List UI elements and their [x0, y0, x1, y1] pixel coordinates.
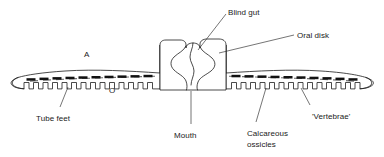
- label-mouth: Mouth: [174, 131, 196, 141]
- oral-disk-outline: [160, 39, 226, 90]
- label-blind-gut: Blind gut: [228, 8, 260, 18]
- label-oral-marker: O: [109, 86, 115, 95]
- anatomy-figure: Blind gut Oral disk Tube feet Mouth Calc…: [0, 0, 384, 157]
- right-arm-outline: [226, 45, 373, 89]
- leader-vertebrae: [301, 88, 310, 105]
- label-calcareous-ossicles: Calcareous: [247, 129, 288, 139]
- label-calcareous-ossicles-line2: ossicles: [247, 140, 276, 150]
- leader-oral-disk: [219, 35, 294, 53]
- label-vertebrae: 'Vertebrae': [312, 112, 350, 122]
- label-oral-disk: Oral disk: [297, 31, 329, 41]
- leader-ossicles: [256, 88, 266, 122]
- label-tube-feet: Tube feet: [36, 114, 70, 124]
- leader-tube-feet: [60, 87, 68, 107]
- label-aboral-marker: A: [84, 50, 89, 59]
